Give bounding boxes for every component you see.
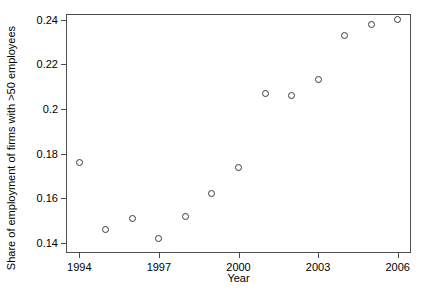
data-point — [76, 159, 83, 166]
y-axis-tick-label: 0.14 — [37, 237, 58, 249]
x-axis-tick — [398, 253, 399, 258]
x-axis-tick — [79, 253, 80, 258]
x-axis-title: Year — [66, 272, 411, 284]
data-point — [394, 16, 401, 23]
y-axis-tick — [61, 154, 66, 155]
y-axis-tick — [61, 198, 66, 199]
y-axis-tick — [61, 109, 66, 110]
y-axis-tick-label: 0.2 — [43, 103, 58, 115]
data-point — [262, 90, 269, 97]
data-point — [341, 32, 348, 39]
y-axis-tick-label: 0.22 — [37, 58, 58, 70]
y-axis-tick-label: 0.18 — [37, 148, 58, 160]
data-point — [129, 215, 136, 222]
data-point — [235, 164, 242, 171]
y-axis-tick — [61, 243, 66, 244]
data-point — [315, 76, 322, 83]
data-point — [182, 213, 189, 220]
data-point — [368, 21, 375, 28]
y-axis-title: Share of employment of firms with >50 em… — [0, 0, 22, 296]
y-axis-tick-label: 0.16 — [37, 192, 58, 204]
x-axis-tick — [239, 253, 240, 258]
x-axis-tick — [159, 253, 160, 258]
data-point — [102, 226, 109, 233]
scatter-chart-figure: Share of employment of firms with >50 em… — [0, 0, 424, 296]
plot-area: 0.140.160.180.20.220.2419941997200020032… — [66, 14, 411, 253]
data-point — [155, 235, 162, 242]
y-axis-tick-label: 0.24 — [37, 14, 58, 26]
data-point — [208, 190, 215, 197]
y-axis-tick — [61, 64, 66, 65]
y-axis-tick — [61, 20, 66, 21]
data-point — [288, 92, 295, 99]
x-axis-tick — [318, 253, 319, 258]
